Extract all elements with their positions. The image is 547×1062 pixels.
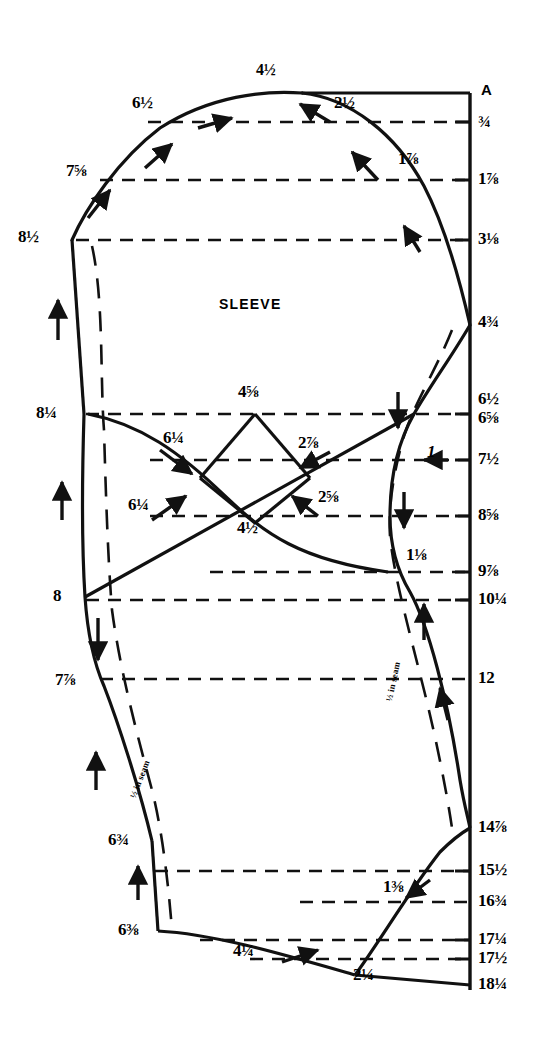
measurement-label-left: 7⅝ — [66, 162, 87, 179]
corner-label-a: A — [481, 82, 492, 97]
measurement-label-left: 8½ — [18, 228, 39, 245]
measurement-label-center: 2⅝ — [318, 488, 339, 505]
construction-dashed-lines — [76, 122, 470, 959]
scale-tick-label: 6⅝ — [478, 409, 499, 426]
scale-tick-label: 1⅞ — [478, 170, 499, 187]
measurement-label-center: 2⅞ — [298, 434, 319, 451]
measurement-label-cap: 1⅞ — [398, 150, 419, 167]
measurement-label-left: 8¼ — [36, 404, 57, 421]
scale-tick-label: 9⅞ — [478, 562, 499, 579]
scale-tick-label: 10¼ — [478, 590, 507, 607]
measurement-label-hem: 1⅜ — [383, 878, 404, 895]
left-side-contour — [72, 240, 158, 931]
scale-tick-label: 16¾ — [478, 892, 507, 909]
scale-tick-label: 7½ — [478, 450, 499, 467]
right-side-waist-curve — [390, 325, 470, 828]
measurement-label-cap-apex: 4½ — [256, 62, 275, 78]
scale-tick-label: 15½ — [478, 861, 507, 878]
measurement-label-hem: 2¼ — [353, 966, 374, 983]
measurement-label-center: 1 — [427, 443, 435, 460]
measurement-label-left: 8 — [53, 587, 61, 604]
measurement-label-left: 6⅜ — [118, 921, 139, 938]
measurement-label-cap: 2½ — [334, 94, 355, 111]
measurement-label-center: 6¼ — [163, 429, 184, 446]
pattern-draft-canvas: SLEEVE A ¾ 1⅞ 3⅛ 4¾ 6½ 6⅝ 7½ 8⅝ 9⅞ 10¼ 1… — [0, 0, 547, 1062]
scale-tick-label: 17¼ — [478, 930, 507, 947]
scale-tick-label: 8⅝ — [478, 506, 499, 523]
scale-tick-label: 12 — [478, 669, 494, 686]
sleeve-cap-curve-right — [302, 93, 470, 325]
pattern-drawing — [0, 0, 547, 1062]
underarm-diagonal-upper — [88, 414, 388, 572]
sleeve-cap-curve-left — [72, 92, 302, 240]
measurement-label-center: 4½ — [237, 519, 258, 536]
measurement-label-cap: 6½ — [132, 94, 153, 111]
page-title: SLEEVE — [219, 297, 281, 311]
measurement-label-center: 1⅛ — [406, 546, 427, 563]
scale-tick-label: 6½ — [478, 390, 499, 407]
scale-tick-label: 18¼ — [478, 975, 507, 992]
measurement-label-left: 6¾ — [108, 831, 129, 848]
scale-tick-label: 3⅛ — [478, 230, 499, 247]
measurement-label-left: 7⅞ — [55, 671, 76, 688]
measurement-label-center: 4⅝ — [238, 383, 259, 400]
measurement-label-hem: 4¼ — [233, 942, 254, 959]
scale-tick-label: 14⅞ — [478, 818, 507, 835]
scale-tick-label: 4¾ — [478, 313, 499, 330]
measurement-label-center: 6¼ — [128, 496, 149, 513]
scale-tick-label: ¾ — [478, 113, 490, 130]
scale-tick-label: 17½ — [478, 949, 507, 966]
